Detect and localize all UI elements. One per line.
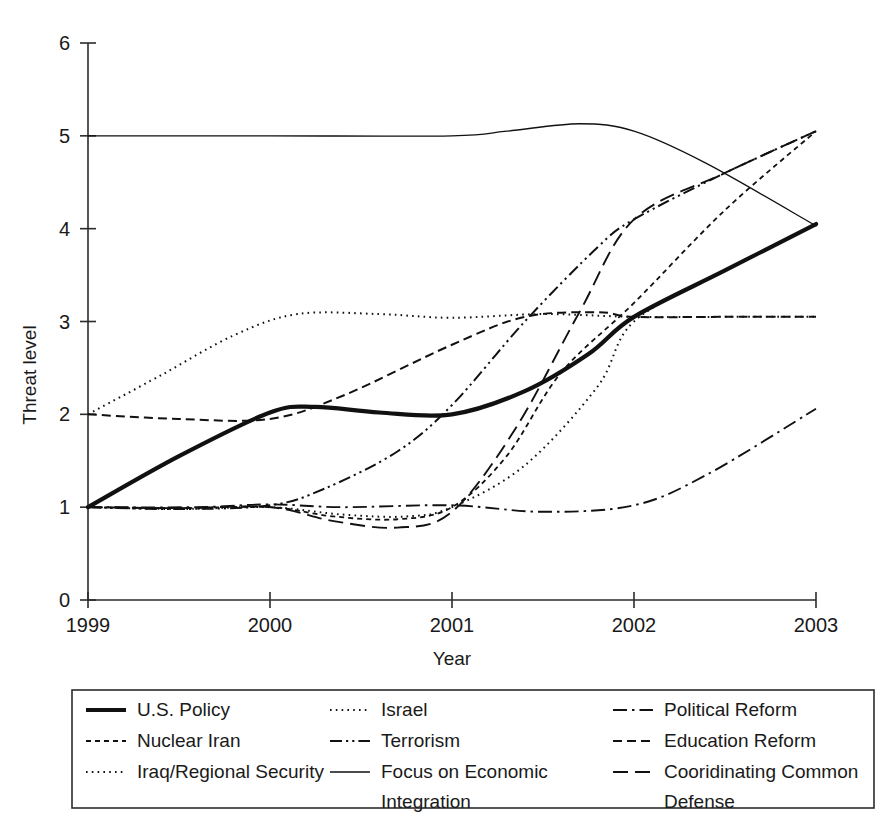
legend-item-nuclear-iran[interactable]: Nuclear Iran bbox=[86, 730, 241, 751]
legend-label-continued: Integration bbox=[381, 791, 471, 812]
data-series-layer bbox=[88, 124, 816, 528]
legend-item-u-s-policy[interactable]: U.S. Policy bbox=[86, 699, 230, 720]
legend-label: Cooridinating Common bbox=[664, 761, 858, 782]
series-line-u-s-policy bbox=[88, 224, 816, 507]
y-tick-label: 4 bbox=[59, 218, 70, 240]
legend-item-israel[interactable]: Israel bbox=[330, 699, 427, 720]
series-line-cooridinating-common-defense bbox=[88, 131, 816, 528]
legend-item-political-reform[interactable]: Political Reform bbox=[613, 699, 797, 720]
x-tick-label: 2002 bbox=[612, 614, 657, 636]
series-line-nuclear-iran bbox=[88, 131, 816, 520]
legend-label: Iraq/Regional Security bbox=[137, 761, 324, 782]
y-axis-title: Threat level bbox=[19, 325, 40, 424]
legend-label-continued: Defense bbox=[664, 791, 735, 812]
series-line-political-reform bbox=[88, 409, 816, 512]
x-axis-title: Year bbox=[433, 648, 472, 669]
y-tick-label: 5 bbox=[59, 125, 70, 147]
y-tick-label: 1 bbox=[59, 496, 70, 518]
legend-label: U.S. Policy bbox=[137, 699, 230, 720]
legend-item-cooridinating-common[interactable]: Cooridinating CommonDefense bbox=[613, 761, 858, 812]
x-tick-label: 2003 bbox=[794, 614, 839, 636]
figure-root: 0123456 19992000200120022003 Threat leve… bbox=[0, 0, 893, 835]
series-line-focus-on-economic-integration bbox=[88, 124, 816, 226]
y-tick-label: 0 bbox=[59, 589, 70, 611]
x-tick-label: 1999 bbox=[66, 614, 111, 636]
legend-item-iraq-regional-security[interactable]: Iraq/Regional Security bbox=[86, 761, 324, 782]
x-tick-label: 2000 bbox=[248, 614, 293, 636]
y-tick-label: 3 bbox=[59, 311, 70, 333]
legend-label: Terrorism bbox=[381, 730, 460, 751]
plot-area: 0123456 19992000200120022003 bbox=[59, 32, 838, 636]
threat-level-line-chart: 0123456 19992000200120022003 Threat leve… bbox=[0, 0, 893, 835]
legend-label: Political Reform bbox=[664, 699, 797, 720]
legend-item-education-reform[interactable]: Education Reform bbox=[613, 730, 816, 751]
legend-label: Education Reform bbox=[664, 730, 816, 751]
y-tick-label: 2 bbox=[59, 403, 70, 425]
x-axis-tick-labels: 19992000200120022003 bbox=[66, 614, 839, 636]
legend-label: Nuclear Iran bbox=[137, 730, 241, 751]
x-tick-label: 2001 bbox=[430, 614, 475, 636]
series-line-israel bbox=[88, 224, 816, 517]
legend-entries: U.S. PolicyNuclear IranIraq/Regional Sec… bbox=[86, 699, 858, 812]
legend-item-focus-on-economic[interactable]: Focus on EconomicIntegration bbox=[330, 761, 548, 812]
legend-label: Israel bbox=[381, 699, 427, 720]
legend-label: Focus on Economic bbox=[381, 761, 548, 782]
y-tick-label: 6 bbox=[59, 32, 70, 54]
legend-item-terrorism[interactable]: Terrorism bbox=[330, 730, 460, 751]
series-line-iraq-regional-security bbox=[88, 312, 816, 414]
y-axis-tick-labels: 0123456 bbox=[59, 32, 70, 611]
series-line-terrorism bbox=[88, 131, 816, 509]
